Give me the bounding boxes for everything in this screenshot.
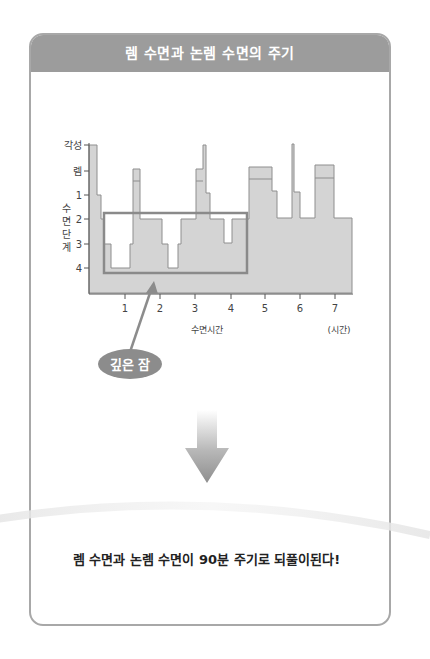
y-label-3: 3 [76,239,82,250]
svg-text:4: 4 [228,303,234,314]
x-ticks [125,294,335,299]
y-label-1: 1 [76,190,82,201]
svg-text:1: 1 [122,303,128,314]
y-label-2: 2 [76,214,82,225]
svg-text:면: 면 [62,216,71,227]
svg-text:7: 7 [332,303,338,314]
svg-text:5: 5 [262,303,268,314]
deep-sleep-callout-label: 깊은 잠 [110,357,151,372]
x-tick-labels: 1 2 3 4 5 6 7 [122,303,338,314]
svg-text:단: 단 [62,229,71,240]
svg-text:6: 6 [297,303,303,314]
y-ticks [84,145,89,268]
y-label-rem: 렘 [73,166,82,177]
callout-pointer-line [130,290,151,352]
down-arrow-icon [184,410,230,490]
y-label-awake: 각성 [64,140,82,151]
sleep-stage-area [89,144,352,293]
x-axis-title: 수면시간 [191,325,223,335]
x-axis-unit: (시간) [327,325,350,335]
svg-text:수: 수 [62,203,71,214]
conclusion-text: 렘 수면과 논렘 수면이 90분 주기로 되풀이된다! [0,549,413,568]
hypnogram-chart: 각성 렘 1 2 3 4 수 면 단 계 1 2 3 4 5 6 7 수면시간 … [0,0,413,420]
y-axis-title: 수 면 단 계 [62,203,71,253]
svg-text:3: 3 [192,303,198,314]
y-label-4: 4 [76,263,82,274]
rem-markers [133,178,334,181]
svg-text:계: 계 [62,242,71,253]
svg-text:2: 2 [157,303,163,314]
